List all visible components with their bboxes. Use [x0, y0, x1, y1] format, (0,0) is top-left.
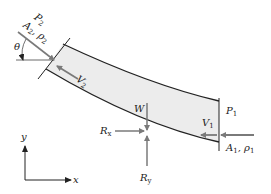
- label-rx-sub: x: [108, 130, 112, 138]
- label-rx-main: R: [100, 125, 108, 136]
- label-theta-text: θ: [14, 41, 20, 52]
- comma: ,: [238, 142, 241, 153]
- theta-arc: [22, 39, 26, 60]
- label-ry-sub: y: [148, 177, 152, 185]
- label-a1-rho1: A1, ρ1: [226, 143, 254, 155]
- label-p1: P1: [226, 106, 237, 118]
- label-axis-x-text: x: [73, 174, 79, 185]
- label-w: W: [134, 104, 144, 114]
- pipe-momentum-diagram: P2 A2, ρ2 θ V2 W Rx Ry P1 V1 A1, ρ1 y x: [0, 0, 271, 194]
- label-axis-x: x: [73, 175, 79, 185]
- label-p1-sub: 1: [233, 110, 237, 118]
- label-axis-y-text: y: [21, 131, 27, 142]
- label-ry-main: R: [140, 172, 148, 183]
- label-w-text: W: [134, 103, 144, 114]
- label-ry: Ry: [140, 173, 152, 185]
- label-v1-sub: 1: [209, 122, 213, 130]
- label-theta: θ: [14, 42, 20, 52]
- pipe-body: [46, 44, 219, 142]
- label-rx: Rx: [100, 126, 111, 138]
- label-rho1-sub: 1: [250, 147, 254, 155]
- label-v1: V1: [202, 118, 214, 130]
- label-p1-main: P: [226, 105, 233, 116]
- label-axis-y: y: [21, 132, 27, 142]
